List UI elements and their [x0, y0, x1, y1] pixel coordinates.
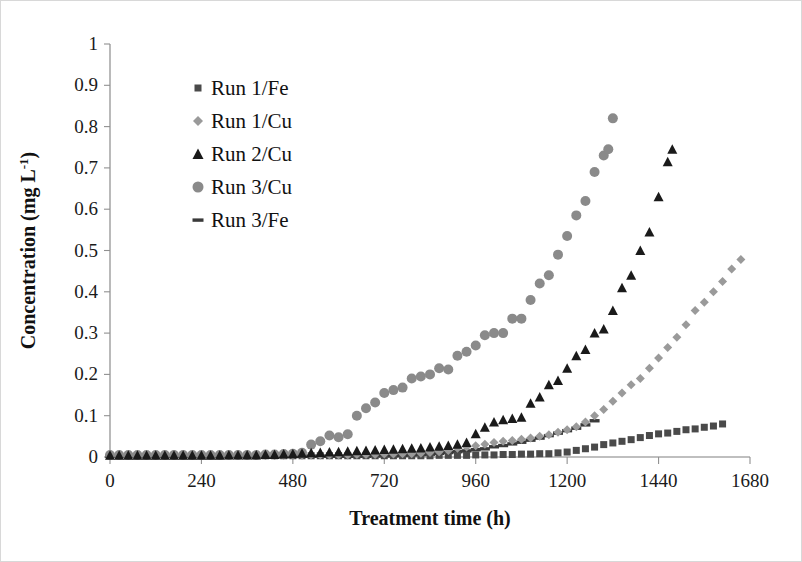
x-tick-label: 1680 [731, 470, 769, 491]
data-point [480, 330, 490, 340]
data-point [554, 428, 563, 437]
data-point [644, 227, 654, 237]
data-point [692, 425, 699, 432]
data-point [352, 446, 362, 456]
data-point [352, 411, 362, 421]
data-point [635, 246, 645, 256]
data-point [663, 157, 673, 167]
data-point [518, 451, 525, 458]
data-point [564, 449, 571, 456]
data-point [571, 210, 581, 220]
data-point [603, 144, 613, 154]
data-point [315, 447, 325, 457]
data-point [452, 439, 462, 449]
legend-marker-circle [193, 182, 204, 193]
x-tick-label: 480 [279, 470, 308, 491]
legend-label: Run 3/Fe [211, 208, 289, 232]
data-point [628, 436, 635, 443]
data-point [489, 328, 499, 338]
data-point [590, 167, 600, 177]
x-tick-label: 240 [187, 470, 216, 491]
data-point [388, 385, 398, 395]
data-point [416, 371, 426, 381]
x-tick-label: 720 [370, 470, 399, 491]
data-point [472, 451, 479, 458]
data-point [544, 380, 554, 390]
data-point [527, 451, 534, 458]
data-point [580, 196, 590, 206]
data-point [555, 449, 562, 456]
y-tick-label: 0 [89, 446, 99, 467]
data-point [434, 441, 444, 451]
data-point [509, 451, 516, 458]
legend-item-run-3-fe[interactable]: Run 3/Fe [193, 208, 289, 232]
data-point [507, 314, 517, 324]
legend-marker-diamond [193, 116, 203, 126]
y-tick-label: 0.7 [74, 157, 98, 178]
data-point [526, 398, 536, 408]
data-point [536, 450, 543, 457]
data-point [416, 443, 426, 453]
data-point [370, 397, 380, 407]
data-point [608, 397, 617, 406]
data-point [526, 295, 536, 305]
data-point [462, 438, 472, 448]
legend-item-run-3-cu[interactable]: Run 3/Cu [193, 175, 293, 199]
series-run-2-cu [105, 144, 677, 460]
y-tick-label: 0.4 [74, 281, 98, 302]
legend-marker-dash [193, 218, 204, 221]
y-tick-label: 0.6 [74, 198, 98, 219]
data-point [498, 415, 508, 425]
data-point [563, 425, 572, 434]
data-point [673, 428, 680, 435]
data-point [398, 444, 408, 454]
x-tick-label: 1440 [640, 470, 678, 491]
data-point [646, 432, 653, 439]
legend-item-run-1-fe[interactable]: Run 1/Fe [195, 76, 289, 100]
data-point [667, 144, 677, 154]
data-point [655, 430, 662, 437]
data-point [599, 324, 609, 334]
y-tick-label: 0.2 [74, 363, 98, 384]
data-point [454, 452, 461, 459]
data-point [471, 429, 481, 439]
data-point [498, 328, 508, 338]
data-point [701, 424, 708, 431]
chart-figure: 00.10.20.30.40.50.60.70.80.9102404807209… [1, 1, 802, 562]
data-point [664, 430, 671, 437]
data-point [489, 417, 499, 427]
data-point [619, 438, 626, 445]
data-point [654, 353, 663, 362]
data-point [379, 445, 389, 455]
data-point [663, 343, 672, 352]
data-point [599, 405, 608, 414]
legend-item-run-2-cu[interactable]: Run 2/Cu [193, 142, 293, 166]
legend-item-run-1-cu[interactable]: Run 1/Cu [193, 109, 293, 133]
data-point [361, 403, 371, 413]
data-point [683, 426, 690, 433]
legend-marker-triangle [193, 149, 204, 160]
data-point [709, 287, 718, 296]
data-point [654, 192, 664, 202]
data-point [700, 298, 709, 307]
y-axis-title-text: Concentration (mg L-1) [16, 152, 41, 350]
data-point [535, 392, 545, 402]
data-point [407, 374, 417, 384]
data-point [343, 446, 353, 456]
data-point [334, 432, 344, 442]
data-point [535, 279, 545, 289]
data-point [480, 422, 490, 432]
legend-label: Run 2/Cu [211, 142, 293, 166]
y-tick-label: 0.9 [74, 74, 98, 95]
data-point [710, 423, 717, 430]
data-point [434, 363, 444, 373]
data-point [590, 328, 600, 338]
legend-label: Run 3/Cu [211, 175, 293, 199]
y-tick-label: 0.3 [74, 322, 98, 343]
data-point [463, 452, 470, 459]
data-point [718, 277, 727, 286]
y-tick-label: 0.8 [74, 116, 98, 137]
data-point [600, 441, 607, 448]
data-point [618, 388, 627, 397]
chart-page: 00.10.20.30.40.50.60.70.80.9102404807209… [0, 0, 802, 562]
